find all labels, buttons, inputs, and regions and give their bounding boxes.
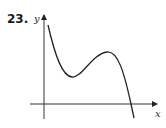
x-axis-label: x (155, 108, 161, 119)
y-axis-label: y (33, 13, 40, 24)
function-graph: y x (0, 0, 166, 128)
